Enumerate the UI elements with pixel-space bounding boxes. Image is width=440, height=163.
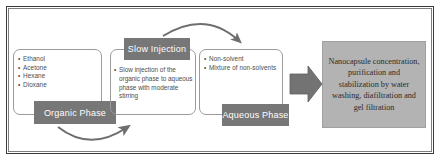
list-item: Slow injection of the organic phase to a… — [114, 66, 194, 101]
aqueous-phase-bullet-list: Non-solvent Mixture of non-solvents — [204, 55, 278, 72]
slow-injection-bullet-list: Slow injection of the organic phase to a… — [114, 66, 194, 101]
aqueous-phase-label: Aqueous Phase — [222, 104, 289, 126]
result-text: Nanocapsule concentration, purification … — [328, 56, 420, 114]
result-box: Nanocapsule concentration, purification … — [322, 41, 426, 128]
list-item: Acetone — [18, 64, 98, 73]
list-item: Mixture of non-solvents — [204, 64, 278, 73]
organic-phase-label: Organic Phase — [34, 101, 116, 124]
list-item: Hexane — [18, 72, 98, 81]
list-item: Ethanol — [18, 55, 98, 64]
slow-injection-label: Slow Injection — [124, 38, 190, 60]
nanocapsule-flow-diagram: Ethanol Acetone Hexane Dioxane Organic P… — [0, 0, 440, 163]
list-item: Non-solvent — [204, 55, 278, 64]
list-item: Dioxane — [18, 81, 98, 90]
organic-phase-bullet-list: Ethanol Acetone Hexane Dioxane — [18, 55, 98, 89]
